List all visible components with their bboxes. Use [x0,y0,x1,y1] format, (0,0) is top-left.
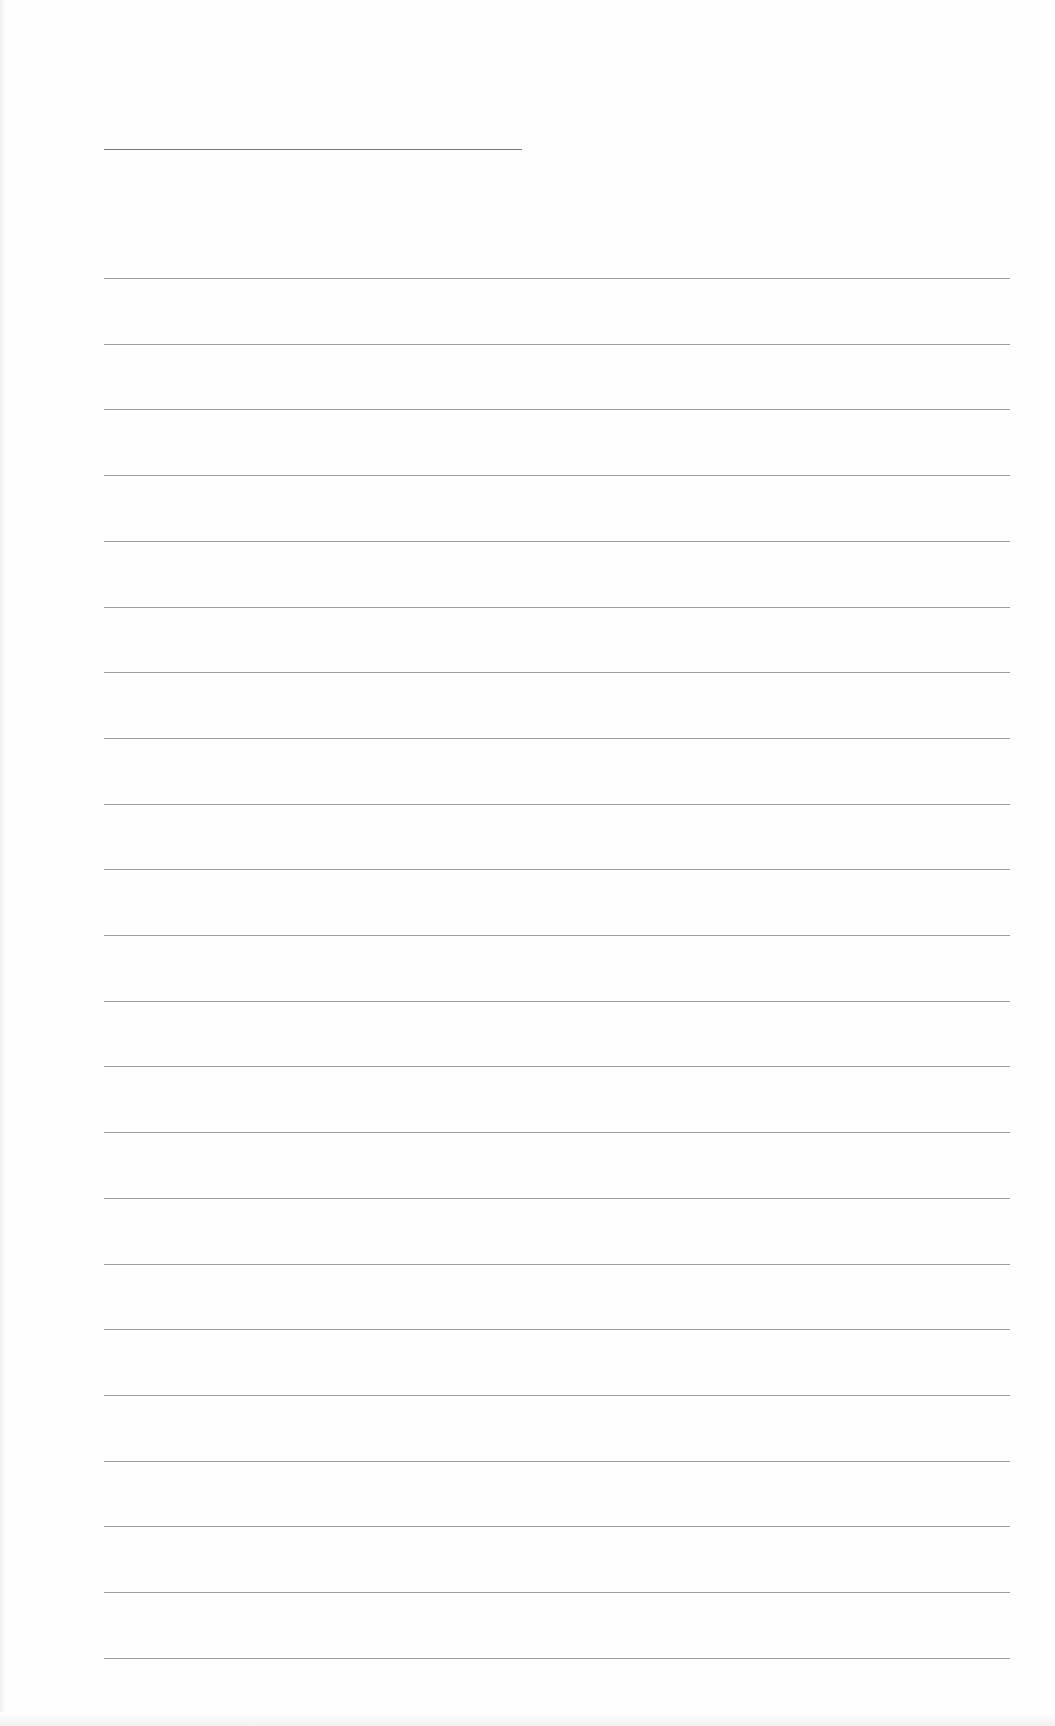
ruled-line [104,475,1010,476]
ruled-line [104,344,1010,345]
ruled-line [104,672,1010,673]
ruled-line [104,1329,1010,1330]
ruled-line [104,278,1010,279]
page-edge-shadow-bottom [0,1712,1055,1726]
ruled-line [104,1658,1010,1659]
ruled-line [104,935,1010,936]
header-line [104,149,522,150]
ruled-line [104,1264,1010,1265]
ruled-line [104,869,1010,870]
ruled-line [104,1395,1010,1396]
ruled-line [104,738,1010,739]
ruled-line [104,804,1010,805]
ruled-line [104,1592,1010,1593]
ruled-line [104,1461,1010,1462]
ruled-line [104,1198,1010,1199]
page-edge-shadow-left [0,0,6,1726]
ruled-line [104,1526,1010,1527]
lined-paper-page [0,0,1055,1726]
ruled-line [104,1066,1010,1067]
ruled-line [104,607,1010,608]
ruled-line [104,541,1010,542]
ruled-line [104,1132,1010,1133]
ruled-line [104,1001,1010,1002]
ruled-line [104,409,1010,410]
